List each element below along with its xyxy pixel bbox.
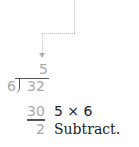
dotted-guide-horizontal <box>42 33 75 34</box>
arrow-down-icon <box>39 53 45 58</box>
subtract-annotation: Subtract. <box>54 122 120 136</box>
dotted-guide-vertical-top <box>74 0 75 33</box>
dividend: 32 <box>27 79 45 93</box>
remainder: 2 <box>36 122 45 136</box>
dotted-guide-vertical-bottom <box>42 33 43 53</box>
product: 30 <box>27 104 45 118</box>
quotient: 5 <box>39 62 48 76</box>
multiply-annotation: 5 × 6 <box>54 104 92 118</box>
